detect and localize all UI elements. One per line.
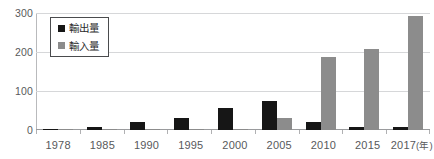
y-tick-label-300: 300 xyxy=(3,8,33,19)
x-tick-label-1985: 1985 xyxy=(80,136,124,156)
x-axis-ticks xyxy=(36,130,430,134)
bar-group-1990 xyxy=(124,13,168,130)
chart-legend: 輸出量 輸入量 xyxy=(50,17,109,57)
x-tick-label-2010: 2010 xyxy=(301,136,345,156)
bar-export-2000 xyxy=(218,108,233,130)
bar-export-1995 xyxy=(174,118,189,130)
legend-swatch-export-icon xyxy=(58,25,65,32)
x-tick-2000 xyxy=(211,130,255,134)
bar-group-2010 xyxy=(299,13,343,130)
bar-chart: 300 200 100 0 19781985199019952000200520… xyxy=(0,0,434,159)
x-tick-label-1990: 1990 xyxy=(124,136,168,156)
x-axis-labels: 197819851990199520002005201020152017(年) xyxy=(36,136,434,156)
bar-import-2005 xyxy=(277,118,292,130)
legend-item-import[interactable]: 輸入量 xyxy=(58,41,99,52)
bar-import-2015 xyxy=(364,49,379,130)
y-tick-label-0: 0 xyxy=(3,125,33,136)
legend-label-export: 輸出量 xyxy=(69,23,99,34)
x-tick-label-2015: 2015 xyxy=(346,136,390,156)
x-tick-label-2005: 2005 xyxy=(257,136,301,156)
x-tick-2017 xyxy=(386,130,430,134)
x-tick-1995 xyxy=(167,130,211,134)
bar-import-2017 xyxy=(408,16,423,130)
bar-group-2000 xyxy=(211,13,255,130)
bar-group-2015 xyxy=(342,13,386,130)
bar-export-1990 xyxy=(130,122,145,130)
x-tick-label-1978: 1978 xyxy=(36,136,80,156)
y-axis-labels: 300 200 100 0 xyxy=(0,0,33,159)
x-tick-label-2017: 2017(年) xyxy=(390,136,434,156)
x-tick-2015 xyxy=(342,130,386,134)
x-axis-end-tick xyxy=(429,130,430,134)
x-tick-1978 xyxy=(36,130,80,134)
x-tick-label-1995: 1995 xyxy=(169,136,213,156)
y-tick-label-200: 200 xyxy=(3,47,33,58)
bar-group-2005 xyxy=(255,13,299,130)
bar-export-2010 xyxy=(306,122,321,130)
bar-import-2010 xyxy=(321,57,336,130)
bar-export-2005 xyxy=(262,101,277,130)
bar-group-1995 xyxy=(167,13,211,130)
x-tick-1990 xyxy=(124,130,168,134)
legend-item-export[interactable]: 輸出量 xyxy=(58,23,99,34)
x-tick-2005 xyxy=(255,130,299,134)
x-tick-2010 xyxy=(299,130,343,134)
x-tick-1985 xyxy=(80,130,124,134)
legend-label-import: 輸入量 xyxy=(69,41,99,52)
legend-swatch-import-icon xyxy=(58,42,65,49)
y-tick-label-100: 100 xyxy=(3,86,33,97)
x-tick-label-2000: 2000 xyxy=(213,136,257,156)
bar-group-2017 xyxy=(386,13,430,130)
